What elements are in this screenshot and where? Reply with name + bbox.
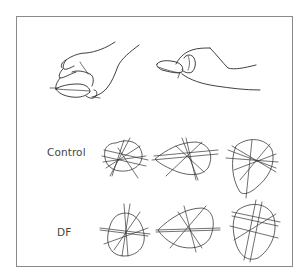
control-diagram-2 [152,138,218,180]
hand-pinch-illustration-right [157,48,260,90]
figure-illustration [0,0,308,280]
control-diagram-1 [102,138,148,178]
hand-grasp-illustration-left [50,42,139,98]
df-diagram-1 [100,204,150,256]
df-diagram-3 [230,200,280,262]
row-label-control: Control [47,146,86,158]
control-diagram-3 [226,140,278,198]
row-label-df: DF [57,226,71,238]
df-diagram-2 [156,206,220,252]
